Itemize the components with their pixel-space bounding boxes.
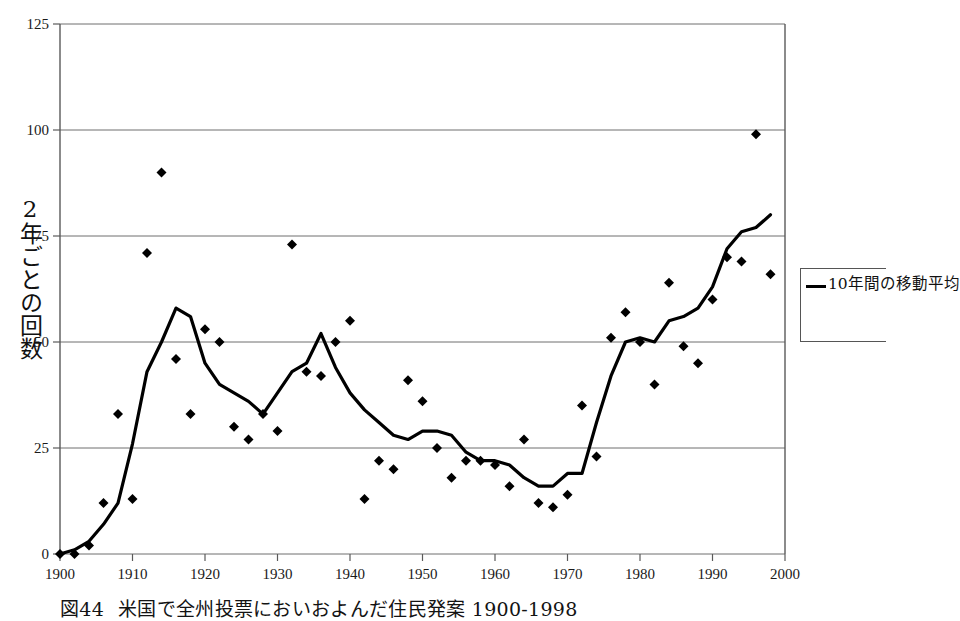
- svg-text:75: 75: [34, 228, 49, 244]
- svg-text:1920: 1920: [190, 566, 220, 582]
- svg-text:1970: 1970: [553, 566, 583, 582]
- svg-text:0: 0: [42, 546, 50, 562]
- scatter-points: [55, 129, 776, 559]
- svg-text:25: 25: [34, 440, 49, 456]
- svg-text:1910: 1910: [118, 566, 148, 582]
- figure-caption-number: 図44: [60, 598, 104, 620]
- gridlines: [60, 24, 785, 554]
- figure-caption: 図44米国で全州投票においおよんだ住民発案 1900-1998: [60, 594, 578, 621]
- svg-text:1960: 1960: [480, 566, 510, 582]
- svg-text:2000: 2000: [770, 566, 800, 582]
- svg-text:1940: 1940: [335, 566, 365, 582]
- svg-text:125: 125: [27, 16, 50, 32]
- axis-lines: [60, 24, 785, 554]
- svg-text:50: 50: [34, 334, 49, 350]
- legend-item-label: 10年間の移動平均: [828, 275, 890, 295]
- svg-text:1900: 1900: [45, 566, 75, 582]
- figure-caption-text: 米国で全州投票においおよんだ住民発案 1900-1998: [118, 598, 578, 620]
- svg-text:1990: 1990: [698, 566, 728, 582]
- x-axis-ticks: 1900191019201930194019501960197019801990…: [45, 554, 800, 582]
- svg-text:100: 100: [27, 122, 50, 138]
- moving-average-line: [60, 215, 771, 554]
- legend-line-swatch-icon: [806, 285, 826, 288]
- svg-text:1980: 1980: [625, 566, 655, 582]
- legend: 10年間の移動平均: [800, 268, 886, 342]
- legend-item: 10年間の移動平均: [806, 275, 890, 295]
- svg-text:1950: 1950: [408, 566, 438, 582]
- y-axis-ticks: 0255075100125: [27, 16, 61, 562]
- svg-text:1930: 1930: [263, 566, 293, 582]
